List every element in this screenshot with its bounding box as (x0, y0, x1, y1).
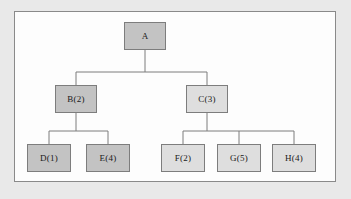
tree-node-a-label: A (142, 32, 149, 41)
tree-node-b[interactable]: B(2) (55, 85, 97, 113)
tree-node-h-label: H(4) (285, 154, 303, 163)
tree-node-c[interactable]: C(3) (186, 85, 228, 113)
tree-node-b-label: B(2) (67, 95, 84, 104)
tree-node-e-label: E(4) (100, 154, 117, 163)
diagram-canvas: A B(2) C(3) D(1) E(4) F(2) G(5) H(4) (0, 0, 351, 199)
tree-node-c-label: C(3) (198, 95, 215, 104)
tree-node-f[interactable]: F(2) (161, 144, 205, 172)
tree-node-a[interactable]: A (124, 22, 166, 50)
tree-node-f-label: F(2) (175, 154, 191, 163)
tree-node-d[interactable]: D(1) (27, 144, 71, 172)
tree-node-g-label: G(5) (230, 154, 248, 163)
tree-node-g[interactable]: G(5) (217, 144, 261, 172)
tree-node-e[interactable]: E(4) (86, 144, 130, 172)
tree-node-d-label: D(1) (40, 154, 58, 163)
tree-node-h[interactable]: H(4) (272, 144, 316, 172)
